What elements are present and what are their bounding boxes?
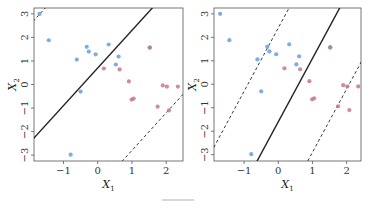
plot-frame (214, 8, 361, 161)
data-point (347, 108, 351, 112)
data-point (265, 45, 269, 49)
data-point (312, 96, 316, 100)
data-point (345, 84, 349, 88)
x-tick-label: 2 (343, 165, 349, 176)
data-point (282, 66, 286, 70)
y-tick-label: −3 (199, 147, 210, 162)
data-point (294, 62, 298, 66)
data-point (356, 84, 360, 88)
data-point (307, 79, 311, 83)
data-point (218, 12, 222, 16)
caption-fragment (162, 199, 194, 201)
data-point (255, 57, 259, 61)
data-point (328, 45, 332, 49)
data-point (227, 38, 231, 42)
y-tick-label: −1 (199, 100, 210, 115)
y-tick-label: 2 (199, 34, 210, 40)
data-point (298, 67, 302, 71)
data-point (249, 152, 253, 156)
data-point (287, 42, 291, 46)
x-axis-label: X1 (280, 178, 293, 193)
data-point (341, 83, 345, 87)
y-tick-label: 1 (199, 58, 210, 64)
data-point (297, 54, 301, 58)
right-scatter-plot: −1012−3−2−10123X1X2 (0, 0, 368, 185)
x-tick-label: −1 (237, 165, 252, 176)
y-axis-label: X2 (186, 78, 201, 91)
data-point (267, 49, 271, 53)
data-point (259, 89, 263, 93)
data-point (336, 104, 340, 108)
right-panel: −1012−3−2−10123X1X2 (0, 0, 184, 185)
y-tick-label: 3 (199, 11, 210, 17)
x-tick-label: 0 (275, 165, 281, 176)
x-tick-label: 1 (309, 165, 315, 176)
data-point (274, 52, 278, 56)
y-tick-label: −2 (199, 124, 210, 139)
